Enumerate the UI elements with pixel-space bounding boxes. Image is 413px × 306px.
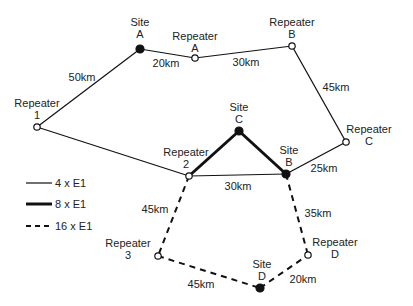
- legend-label-thick: 8 x E1: [55, 198, 86, 210]
- link-distance-label: 30km: [225, 180, 252, 192]
- node-label-title: Site: [280, 144, 299, 156]
- link-siteA-rep1: [37, 49, 140, 127]
- node-label-title: Repeater: [346, 123, 392, 135]
- network-diagram: 50km20km30km45km30km25km45km45km20km35km…: [0, 0, 413, 306]
- repeater-node-repC: [343, 139, 349, 145]
- link-distance-label: 45km: [323, 81, 350, 93]
- node-label-id: 3: [125, 249, 131, 261]
- link-distance-label: 35km: [305, 207, 332, 219]
- link-distance-label: 45km: [142, 203, 169, 215]
- legend: 4 x E1 8 x E1 16 x E1: [26, 177, 92, 232]
- node-label-id: C: [365, 135, 373, 147]
- repeater-node-repB: [289, 43, 295, 49]
- node-label-id: C: [235, 113, 243, 125]
- repeater-node-rep1: [34, 124, 40, 130]
- link-distance-label: 20km: [290, 273, 317, 285]
- node-label-id: B: [285, 156, 292, 168]
- node-label-title: Repeater: [105, 237, 151, 249]
- node-label-title: Repeater: [163, 146, 209, 158]
- legend-label-thin: 4 x E1: [55, 177, 86, 189]
- node-label-id: B: [288, 28, 295, 40]
- node-label-title: Site: [253, 258, 272, 270]
- node-label-title: Repeater: [269, 16, 315, 28]
- node-label-title: Repeater: [312, 236, 358, 248]
- link-distance-label: 25km: [311, 162, 338, 174]
- node-label-id: A: [136, 28, 144, 40]
- site-node-siteD: [256, 284, 264, 292]
- node-label-title: Site: [131, 16, 150, 28]
- site-node-siteC: [235, 127, 243, 135]
- repeater-node-repA: [192, 55, 198, 61]
- node-label-title: Site: [230, 101, 249, 113]
- repeater-node-repD: [305, 252, 311, 258]
- link-distance-label: 20km: [153, 57, 180, 69]
- link-distance-label: 50km: [69, 71, 96, 83]
- link-rep2-rep3: [158, 176, 189, 256]
- legend-label-dashed: 16 x E1: [55, 220, 92, 232]
- repeater-node-rep3: [155, 253, 161, 259]
- node-labels-layer: SiteARepeaterARepeaterBRepeater1SiteCRep…: [14, 16, 392, 282]
- link-repB-repC: [292, 46, 346, 142]
- link-distance-label: 30km: [233, 56, 260, 68]
- node-label-id: D: [331, 248, 339, 260]
- site-node-siteB: [282, 170, 290, 178]
- node-label-title: Repeater: [14, 97, 60, 109]
- link-distance-label: 45km: [188, 278, 215, 290]
- site-node-siteA: [136, 45, 144, 53]
- node-label-id: 1: [34, 109, 40, 121]
- link-rep2-siteB: [189, 174, 286, 176]
- node-label-id: 2: [183, 158, 189, 170]
- node-label-id: A: [191, 42, 199, 54]
- node-label-id: D: [258, 270, 266, 282]
- node-label-title: Repeater: [172, 30, 218, 42]
- repeater-node-rep2: [186, 173, 192, 179]
